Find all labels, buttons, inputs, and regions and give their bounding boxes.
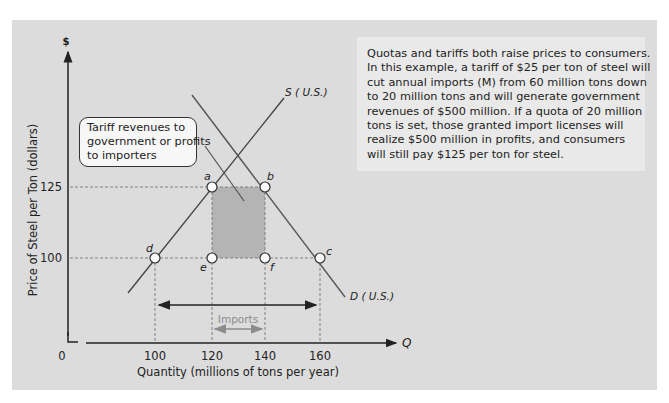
description-line: cut annual imports (M) from 60 million t… [367, 76, 645, 90]
y-tick-125: 125 [40, 180, 62, 194]
tariff-revenue-area [212, 187, 265, 258]
point-e [207, 253, 217, 263]
point-b [260, 182, 270, 192]
description-line: tons is set, those granted import licens… [367, 119, 645, 133]
origin-label: 0 [58, 349, 65, 363]
supply-label: S ( U.S.) [285, 86, 328, 98]
callout-line: government or profits [87, 135, 196, 149]
point-label-c: c [326, 245, 332, 258]
description-line: realize $500 million in profits, and con… [367, 133, 645, 147]
y-tick-100: 100 [40, 251, 62, 265]
x-tick-100: 100 [144, 349, 166, 363]
description-line: to 20 million tons and will generate gov… [367, 90, 645, 104]
x-tick-120: 120 [201, 349, 223, 363]
description-box: Quotas and tariffs both raise prices to … [357, 37, 645, 171]
tariff-revenue-callout: Tariff revenues to government or profits… [79, 117, 197, 167]
callout-line: to importers [87, 149, 196, 163]
description-line: revenues of $500 million. If a quota of … [367, 105, 645, 119]
demand-label: D ( U.S.) [350, 290, 394, 302]
point-label-a: a [204, 170, 211, 183]
x-axis-title: Quantity (millions of tons per year) [137, 365, 339, 379]
point-c [315, 253, 325, 263]
x-tick-160: 160 [309, 349, 331, 363]
callout-line: Tariff revenues to [87, 121, 196, 135]
description-line: Quotas and tariffs both raise prices to … [367, 47, 645, 61]
point-label-b: b [267, 170, 274, 183]
imports-label: Imports [218, 313, 258, 325]
axis-break-bracket [68, 332, 78, 342]
x-tick-140: 140 [254, 349, 276, 363]
point-f [260, 253, 270, 263]
description-line: will still pay $125 per ton for steel. [367, 148, 645, 162]
x-axis-symbol: Q [402, 336, 411, 350]
description-line: In this example, a tariff of $25 per ton… [367, 61, 645, 75]
y-axis-symbol: $ [63, 36, 70, 47]
point-a [207, 182, 217, 192]
point-label-f: f [270, 261, 276, 274]
y-axis-title: Price of Steel per Ton (dollars) [26, 124, 40, 297]
point-label-d: d [146, 242, 154, 255]
point-label-e: e [200, 261, 207, 274]
